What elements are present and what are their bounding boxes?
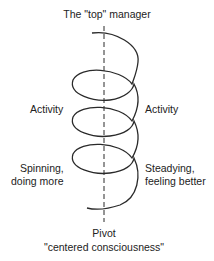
steadying-label-line1: Steadying, bbox=[145, 162, 195, 174]
spinning-label-line2: doing more bbox=[11, 175, 63, 187]
spiral-curve bbox=[72, 33, 138, 209]
pivot-label: Pivot bbox=[54, 227, 154, 239]
centered-consciousness-label: "centered consciousness" bbox=[34, 241, 174, 253]
right-activity-label: Activity bbox=[145, 103, 178, 115]
spinning-label-line1: Spinning, bbox=[20, 162, 63, 174]
left-activity-label: Activity bbox=[30, 103, 63, 115]
steadying-label-line2: feeling better bbox=[145, 175, 206, 187]
title-top-manager: The "top" manager bbox=[57, 8, 157, 20]
spiral-diagram bbox=[0, 0, 214, 261]
